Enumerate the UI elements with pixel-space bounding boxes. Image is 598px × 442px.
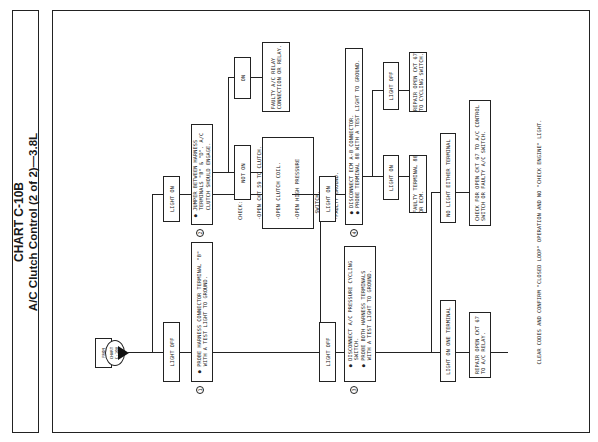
connector-line: [431, 192, 432, 352]
step-1-box: PROBE HARNESS CONNECTOR TERMINAL "B" WIT…: [191, 242, 213, 382]
connector-line: [152, 194, 153, 352]
step-number-4: 4: [350, 229, 358, 237]
branch-light-on-one-terminal: LIGHT ON ONE TERMINAL: [440, 300, 456, 382]
result-check-circuits: CHECK: -OPEN CKT 59 TO CLUTCH. -OPEN CLU…: [262, 137, 314, 229]
branch-no-light-either-terminal: NO LIGHT EITHER TERMINAL: [440, 133, 456, 223]
branch-light-on-3: LIGHT ON: [383, 155, 399, 200]
branch-light-on-1: LIGHT ON: [163, 176, 180, 222]
step-number-1: 1: [196, 386, 204, 394]
start-arrow-icon: [118, 346, 129, 360]
step-4-text: DISCONNECT ECM A-B CONNECTOR. PROBE TERM…: [348, 59, 361, 214]
step-1-text: PROBE HARNESS CONNECTOR TERMINAL "B" WIT…: [196, 251, 209, 374]
branch-light-on-2: LIGHT ON: [319, 176, 336, 222]
connector-line: [363, 176, 385, 177]
step-2-text: JUMPER BETWEEN HARNESS TERMINALS "B" & "…: [192, 132, 211, 216]
connector-line: [456, 192, 470, 193]
result-repair-ac-relay: REPAIR OPEN CKT 67 TO A/C RELAY.: [469, 312, 491, 378]
chart-title-code: CHART C-10B: [12, 72, 26, 372]
result-repair-cycling-switch: REPAIR OPEN CKT 67 TO CYCLING SWITCH.: [409, 52, 427, 112]
step-number-3: 3: [350, 386, 358, 394]
connector-line: [372, 90, 373, 176]
branch-on: ON: [234, 57, 251, 99]
connector-line: [456, 352, 470, 353]
connector-line: [292, 194, 322, 195]
title-panel: CHART C-10B A/C Clutch Control (2 of 2)—…: [12, 10, 39, 433]
step-4-box: DISCONNECT ECM A-B CONNECTOR. PROBE TERM…: [345, 48, 363, 225]
step-number-2: 2: [196, 229, 204, 237]
chart-title-subtitle: A/C Clutch Control (2 of 2)—3.8L: [26, 72, 40, 372]
result-check-control-switch: CHECK FOR OPEN CKT 67 TO A/C CONTROL SWI…: [469, 100, 491, 226]
result-faulty-terminal-88: FAULTY TERMINAL 88 OR ECM.: [409, 155, 427, 213]
branch-light-off-1: LIGHT OFF: [163, 322, 180, 382]
branch-light-off-3: LIGHT OFF: [383, 62, 399, 110]
step-2-box: JUMPER BETWEEN HARNESS TERMINALS "B" & "…: [191, 124, 213, 225]
branch-light-off-2: LIGHT OFF: [319, 322, 336, 382]
step-3-text: DISCONNECT A/C PRESSURE CYCLING SWITCH. …: [347, 261, 373, 367]
chart-title: CHART C-10B A/C Clutch Control (2 of 2)—…: [12, 72, 40, 372]
step-3-box: DISCONNECT A/C PRESSURE CYCLING SWITCH. …: [344, 246, 376, 382]
result-faulty-relay: FAULTY A/C RELAY CONNECTION OR RELAY.: [262, 42, 290, 112]
